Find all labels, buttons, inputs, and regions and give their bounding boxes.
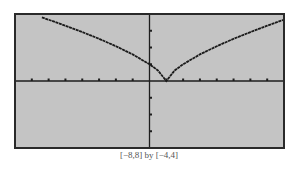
calculator-graph xyxy=(0,0,298,169)
window-caption: [−8,8] by [−4,4] xyxy=(0,150,298,160)
